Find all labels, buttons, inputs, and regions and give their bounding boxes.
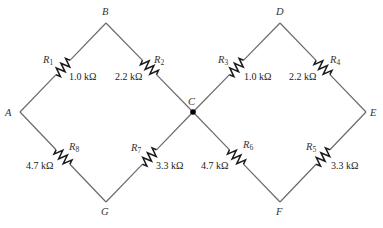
wire-segment — [280, 164, 316, 202]
wire-segment — [193, 75, 230, 112]
resistor-name-r5: R5 — [305, 141, 316, 154]
resistor-r3-symbol — [230, 58, 244, 76]
node-label-d: D — [275, 6, 284, 17]
resistor-name-r7: R7 — [130, 142, 141, 155]
node-label-b: B — [102, 6, 109, 17]
wire-segment — [193, 112, 230, 150]
resistor-name-r3: R3 — [217, 54, 228, 67]
resistor-value-r2: 2.2 kΩ — [115, 71, 142, 82]
node-label-e: E — [369, 107, 377, 118]
resistor-name-r8: R8 — [68, 141, 79, 154]
node-label-g: G — [101, 206, 109, 217]
wire-segment — [243, 164, 280, 202]
resistor-r1-symbol — [56, 58, 70, 76]
wire-segment — [156, 112, 193, 150]
junction-dot-c — [190, 109, 196, 115]
node-label-f: F — [275, 206, 283, 217]
wire-segment — [70, 164, 106, 202]
resistor-value-r4: 2.2 kΩ — [289, 71, 316, 82]
circuit-diagram: A B C D E F G R1 1.0 kΩ R2 2.2 kΩ R3 1.0… — [0, 0, 383, 228]
wire-segment — [20, 75, 56, 112]
resistor-value-r6: 4.7 kΩ — [201, 160, 228, 171]
resistor-r7-symbol — [143, 148, 157, 166]
resistor-name-r4: R4 — [329, 54, 340, 67]
wire-segment — [280, 23, 316, 60]
resistor-name-r6: R6 — [242, 139, 253, 152]
resistor-r6-symbol — [228, 150, 246, 164]
wire-segment — [106, 23, 143, 60]
node-label-a: A — [4, 107, 12, 118]
resistor-value-r1: 1.0 kΩ — [69, 71, 96, 82]
wire-segment — [20, 112, 56, 150]
resistor-value-r3: 1.0 kΩ — [244, 71, 271, 82]
resistor-value-r8: 4.7 kΩ — [26, 160, 53, 171]
wire-segment — [106, 164, 143, 202]
wire-segment — [243, 23, 280, 60]
wire-segment — [70, 23, 106, 60]
wire-segment — [330, 112, 366, 150]
resistor-name-r1: R1 — [42, 54, 53, 67]
resistor-value-r7: 3.3 kΩ — [156, 160, 183, 171]
resistor-r5-symbol — [316, 148, 330, 166]
node-label-c: C — [188, 96, 196, 107]
wire-segment — [330, 75, 366, 112]
resistor-value-r5: 3.3 kΩ — [331, 160, 358, 171]
